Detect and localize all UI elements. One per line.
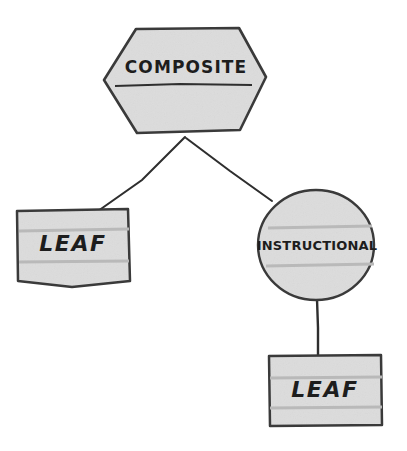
- leaf-bottom-label: LEAF: [291, 377, 359, 402]
- instructional-label: INSTRUCTIONAL: [257, 238, 378, 253]
- leaf-bottom-rule-lower: [270, 407, 382, 408]
- leaf-left-label: LEAF: [39, 231, 107, 256]
- edge-composite-leaf-left: [98, 137, 185, 211]
- node-leaf-bottom[interactable]: LEAF: [269, 355, 382, 426]
- instructional-rule-lower: [266, 264, 374, 266]
- edge-instructional-leaf-bottom: [317, 299, 318, 356]
- node-instructional[interactable]: INSTRUCTIONAL: [257, 190, 378, 300]
- diagram-svg: COMPOSITE LEAF INSTRUCTIONAL LEAF: [0, 0, 407, 451]
- leaf-left-rule-lower: [19, 261, 129, 262]
- node-leaf-left[interactable]: LEAF: [17, 209, 130, 287]
- instructional-rule-upper: [268, 226, 372, 228]
- node-composite[interactable]: COMPOSITE: [104, 28, 266, 133]
- composite-label: COMPOSITE: [125, 57, 247, 77]
- edge-composite-instructional: [186, 138, 272, 201]
- diagram-canvas: COMPOSITE LEAF INSTRUCTIONAL LEAF: [0, 0, 407, 451]
